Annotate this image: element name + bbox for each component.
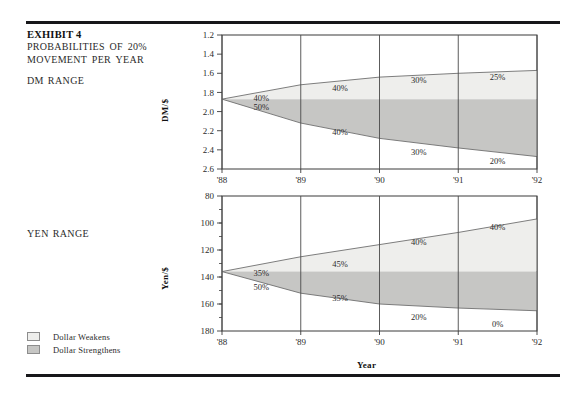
svg-text:2.2: 2.2 — [203, 126, 214, 136]
svg-text:'89: '89 — [295, 337, 306, 347]
yen-axis-label: Yen/$ — [160, 267, 170, 290]
yen-range-label: YEN RANGE — [27, 228, 89, 239]
exhibit-subtitle-line1: PROBABILITIES OF 20% — [27, 41, 172, 54]
pct-label: 50% — [254, 282, 270, 292]
svg-text:1.6: 1.6 — [203, 68, 215, 78]
pct-label: 50% — [254, 102, 270, 112]
svg-text:'90: '90 — [374, 175, 385, 185]
pct-label: 0% — [492, 319, 503, 329]
svg-text:'91: '91 — [453, 337, 464, 347]
pct-label: 40% — [332, 127, 348, 137]
exhibit-subtitle-line2: MOVEMENT PER YEAR — [27, 54, 172, 67]
pct-label: 40% — [490, 222, 506, 232]
legend-item-dollar-strengthens: Dollar Strengthens — [27, 343, 121, 356]
pct-label: 40% — [411, 237, 427, 247]
legend-swatch-strong-icon — [27, 345, 40, 354]
svg-text:1.2: 1.2 — [203, 30, 214, 40]
dm-range-chart: 1.21.41.61.82.02.22.42.6'88'89'90'91'925… — [176, 27, 566, 187]
svg-text:1.8: 1.8 — [203, 88, 215, 98]
legend-label-dollar-strengthens: Dollar Strengthens — [53, 345, 121, 355]
legend-swatch-weak-icon — [27, 332, 40, 341]
svg-text:2.4: 2.4 — [203, 145, 215, 155]
legend-item-dollar-weakens: Dollar Weakens — [27, 330, 121, 343]
svg-text:80: 80 — [205, 191, 215, 201]
pct-label: 35% — [254, 268, 270, 278]
exhibit-heading: EXHIBIT 4 PROBABILITIES OF 20% MOVEMENT … — [27, 28, 172, 66]
exhibit-title: EXHIBIT 4 — [27, 28, 172, 41]
svg-text:1.4: 1.4 — [203, 49, 215, 59]
pct-label: 30% — [411, 75, 427, 85]
svg-text:2.0: 2.0 — [203, 107, 215, 117]
svg-text:'88: '88 — [217, 337, 228, 347]
svg-text:'92: '92 — [532, 337, 543, 347]
svg-text:180: 180 — [201, 326, 215, 336]
pct-label: 20% — [490, 156, 506, 166]
pct-label: 20% — [411, 312, 427, 322]
dm-axis-label: DM/$ — [160, 99, 170, 122]
svg-text:'88: '88 — [217, 175, 228, 185]
pct-label: 30% — [411, 147, 427, 157]
yen-chart-svg: 80100120140160180'88'89'90'91'9250%45%40… — [176, 188, 566, 353]
x-axis-label: Year — [357, 360, 376, 370]
exhibit-page: EXHIBIT 4 PROBABILITIES OF 20% MOVEMENT … — [0, 0, 576, 396]
pct-label: 45% — [332, 259, 348, 269]
pct-label: 25% — [490, 72, 506, 82]
top-rule — [26, 21, 560, 24]
bottom-rule — [26, 374, 560, 377]
yen-range-chart: 80100120140160180'88'89'90'91'9250%45%40… — [176, 188, 566, 353]
svg-text:'92: '92 — [532, 175, 543, 185]
svg-text:120: 120 — [201, 245, 215, 255]
legend-label-dollar-weakens: Dollar Weakens — [53, 332, 110, 342]
pct-label: 40% — [254, 93, 270, 103]
svg-text:160: 160 — [201, 299, 215, 309]
legend: Dollar Weakens Dollar Strengthens — [27, 330, 121, 356]
pct-label: 40% — [332, 83, 348, 93]
svg-text:'91: '91 — [453, 175, 464, 185]
svg-text:140: 140 — [201, 272, 215, 282]
svg-text:'89: '89 — [295, 175, 306, 185]
pct-label: 35% — [332, 293, 348, 303]
dm-range-label: DM RANGE — [27, 75, 84, 86]
svg-text:2.6: 2.6 — [203, 164, 215, 174]
svg-text:100: 100 — [201, 218, 215, 228]
svg-text:'90: '90 — [374, 337, 385, 347]
dm-chart-svg: 1.21.41.61.82.02.22.42.6'88'89'90'91'925… — [176, 27, 566, 187]
